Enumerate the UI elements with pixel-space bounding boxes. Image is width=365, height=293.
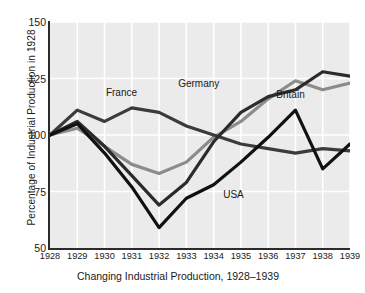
- plot-area: [50, 22, 350, 248]
- y-tick-label: 75: [20, 187, 46, 198]
- y-axis-tick-labels: 5075100125150: [18, 0, 46, 293]
- x-axis-line: [48, 248, 350, 250]
- series-label-germany: Germany: [178, 79, 219, 89]
- series-label-usa: USA: [223, 190, 244, 200]
- y-tick-label: 125: [20, 74, 46, 85]
- y-axis-line: [48, 21, 50, 250]
- plot-canvas: [50, 22, 350, 248]
- chart-title: Changing Industrial Production, 1928–193…: [0, 270, 356, 282]
- x-axis-tick-labels: 1928192919301931193219331934193519361937…: [0, 252, 356, 266]
- x-tick-label: 1939: [333, 252, 365, 261]
- series-label-britain: Britain: [276, 90, 304, 100]
- y-tick-label: 100: [20, 130, 46, 141]
- series-label-france: France: [106, 88, 137, 98]
- y-tick-label: 150: [20, 17, 46, 28]
